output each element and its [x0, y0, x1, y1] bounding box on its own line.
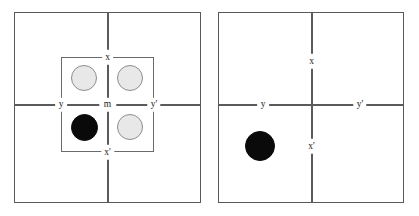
left-panel-label-x: x: [102, 50, 114, 65]
right-panel-label-y: y: [257, 97, 269, 112]
left-panel-disc-bottom-right: [117, 114, 143, 140]
right-panel-label-x-prime: x': [305, 139, 318, 154]
right-panel: x x' y y': [218, 12, 404, 203]
figure: x x' y y' m x x' y y': [0, 0, 419, 216]
left-panel-label-y-prime: y': [147, 97, 160, 112]
right-panel-label-y-prime: y': [353, 97, 366, 112]
right-panel-label-x: x: [306, 54, 318, 69]
left-panel-label-y: y: [55, 97, 67, 112]
left-panel-disc-top-right: [117, 65, 143, 91]
left-panel-label-m: m: [99, 97, 116, 112]
left-panel: x x' y y' m: [14, 12, 201, 203]
right-panel-disc-bottom-left: [245, 131, 275, 161]
left-panel-label-x-prime: x': [101, 145, 114, 160]
left-panel-disc-top-left: [71, 65, 97, 91]
left-panel-disc-bottom-left: [71, 114, 98, 141]
right-panel-horizontal-axis: [219, 104, 403, 106]
right-panel-vertical-axis: [311, 13, 313, 202]
